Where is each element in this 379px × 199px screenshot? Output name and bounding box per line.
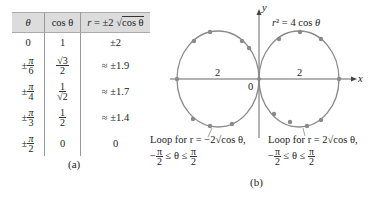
right-loop-label: Loop for r = 2√cos θ, −π2 ≤ θ ≤ π2: [268, 134, 358, 166]
x-axis-label: x: [358, 73, 363, 85]
lemniscate-graph: [0, 0, 379, 199]
x-axis-arrow-icon: [351, 77, 357, 82]
right-radius-label: 2: [297, 67, 302, 79]
left-loop-label: Loop for r = −2√cos θ, −π2 ≤ θ ≤ π2: [150, 134, 246, 166]
y-axis-label: y: [262, 2, 267, 14]
left-radius-label: 2: [215, 67, 220, 79]
equation-label: r² = 4 cos θ: [272, 17, 320, 29]
y-axis-arrow-icon: [257, 9, 262, 15]
origin-label: 0: [248, 81, 253, 93]
caption-b: (b): [250, 176, 263, 188]
